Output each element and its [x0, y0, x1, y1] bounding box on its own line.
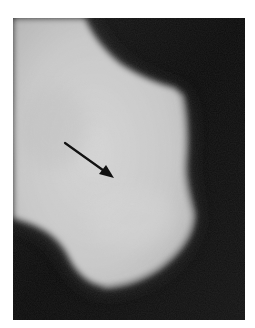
radiograph-svg — [13, 18, 245, 320]
radiograph-image: Radiograph of a bone with a black arrow … — [13, 18, 245, 320]
film-grain — [13, 18, 245, 320]
